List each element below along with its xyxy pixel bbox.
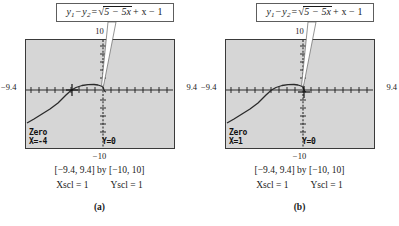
graph-a bbox=[26, 40, 173, 147]
panel-b: y1−y2=√5 − 5x+ x − 1 10 −9.4 9.4 −10 bbox=[200, 0, 399, 226]
panel-a: y1−y2=√5 − 5x+ x − 1 10 −9.4 9.4 −10 bbox=[0, 0, 199, 226]
radical-sign-a: √ bbox=[98, 5, 104, 17]
radical-sign-b: √ bbox=[298, 5, 304, 17]
screen-bottom-label-b: −10 bbox=[200, 151, 399, 161]
figure: y1−y2=√5 − 5x+ x − 1 10 −9.4 9.4 −10 bbox=[0, 0, 399, 226]
radicand-b: 5 − 5x bbox=[303, 6, 332, 18]
screen-left-label-b: −9.4 bbox=[201, 82, 216, 92]
panel-tag-b: (b) bbox=[200, 202, 399, 212]
caption-a: [−9.4, 9.4] by [−10, 10] Xscl = 1Yscl = … bbox=[0, 163, 199, 192]
screen-top-label-b: 10 bbox=[200, 26, 399, 36]
screen-right-label-b: 9.4 bbox=[386, 82, 397, 92]
readout-title-a: Zero bbox=[29, 128, 47, 137]
calculator-readout-b: Zero X=1 bbox=[229, 128, 247, 146]
caption-yscl-a: Yscl = 1 bbox=[111, 180, 143, 190]
calculator-readout-a: Zero X=-4 bbox=[29, 128, 47, 146]
formula-text-b: y1−y2=√5 − 5x+ x − 1 bbox=[266, 6, 363, 19]
screen-right-label-a: 9.4 bbox=[186, 82, 197, 92]
screen-left-label-a: −9.4 bbox=[1, 82, 16, 92]
readout-y-b: Y=0 bbox=[302, 137, 316, 146]
formula-text-a: y1−y2=√5 − 5x+ x − 1 bbox=[66, 6, 163, 19]
screen-top-label-a: 10 bbox=[0, 26, 199, 36]
panel-tag-a: (a) bbox=[0, 202, 199, 212]
formula-callout-b: y1−y2=√5 − 5x+ x − 1 bbox=[256, 3, 374, 22]
screen-bottom-label-a: −10 bbox=[0, 151, 199, 161]
calculator-screen-b[interactable]: Zero X=1 Y=0 bbox=[225, 39, 375, 149]
formula-callout-a: y1−y2=√5 − 5x+ x − 1 bbox=[56, 3, 174, 22]
caption-range-a: [−9.4, 9.4] by [−10, 10] bbox=[55, 165, 145, 175]
readout-y-a: Y=0 bbox=[102, 137, 116, 146]
graph-b bbox=[226, 40, 373, 147]
caption-b: [−9.4, 9.4] by [−10, 10] Xscl = 1Yscl = … bbox=[200, 163, 399, 192]
readout-x-a: X=-4 bbox=[29, 137, 47, 146]
caption-yscl-b: Yscl = 1 bbox=[311, 180, 343, 190]
caption-xscl-b: Xscl = 1 bbox=[256, 180, 288, 190]
readout-title-b: Zero bbox=[229, 128, 247, 137]
caption-range-b: [−9.4, 9.4] by [−10, 10] bbox=[255, 165, 345, 175]
radicand-a: 5 − 5x bbox=[103, 6, 132, 18]
caption-xscl-a: Xscl = 1 bbox=[56, 180, 88, 190]
readout-x-b: X=1 bbox=[229, 137, 247, 146]
calculator-screen-a[interactable]: Zero X=-4 Y=0 bbox=[25, 39, 175, 149]
